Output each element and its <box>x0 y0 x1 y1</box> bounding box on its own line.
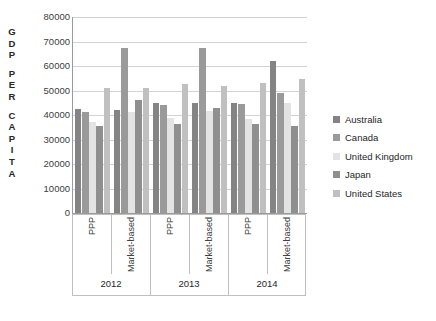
legend-swatch <box>333 134 340 141</box>
bar[interactable] <box>96 126 103 213</box>
bar[interactable] <box>89 122 96 213</box>
legend-item[interactable]: Canada <box>333 129 433 148</box>
bar[interactable] <box>192 103 199 213</box>
axis-title-letter: A <box>9 168 16 180</box>
y-axis-tick-label: 60000 <box>24 60 70 71</box>
category-label: PPP <box>228 214 267 274</box>
category-label-text: Market-based <box>126 217 136 272</box>
category-label: Market-based <box>111 214 150 274</box>
bar[interactable] <box>270 61 277 213</box>
bar-group <box>190 17 229 213</box>
y-axis-title: GDPPERCAPITA <box>4 26 20 179</box>
legend-item[interactable]: United Kingdom <box>333 147 433 166</box>
axis-title-letter: P <box>9 133 15 145</box>
bar[interactable] <box>82 112 89 213</box>
year-label: 2014 <box>228 274 306 296</box>
legend-label: United States <box>345 188 402 199</box>
bar[interactable] <box>121 48 128 213</box>
axis-title-letter: C <box>9 110 16 122</box>
bar[interactable] <box>221 86 228 213</box>
bar[interactable] <box>213 108 220 213</box>
bar-group <box>268 17 307 213</box>
y-axis-tick-label: 0 <box>24 207 70 218</box>
bar[interactable] <box>199 48 206 213</box>
category-label: PPP <box>150 214 189 274</box>
bar[interactable] <box>260 83 267 213</box>
bar[interactable] <box>182 84 189 213</box>
category-label: Market-based <box>267 214 306 274</box>
bar-groups <box>73 17 307 213</box>
y-axis-tick-label: 20000 <box>24 158 70 169</box>
y-axis-tick-label: 10000 <box>24 183 70 194</box>
category-label-text: PPP <box>165 217 175 235</box>
category-separator <box>150 214 151 274</box>
bar[interactable] <box>252 124 259 213</box>
axis-title-letter: P <box>9 68 15 80</box>
axis-title-letter: T <box>9 156 15 168</box>
y-axis-tick-label: 40000 <box>24 109 70 120</box>
axis-title-letter: G <box>8 26 15 38</box>
bar[interactable] <box>299 79 306 213</box>
legend-item[interactable]: United States <box>333 184 433 203</box>
bar[interactable] <box>174 124 181 213</box>
legend-label: Australia <box>345 114 382 125</box>
y-axis-tick-label: 70000 <box>24 36 70 47</box>
bar[interactable] <box>277 93 284 213</box>
y-axis-tick-label: 80000 <box>24 11 70 22</box>
bar[interactable] <box>206 111 213 213</box>
axis-title-letter: R <box>9 91 16 103</box>
axis-title-letter: E <box>9 79 15 91</box>
legend-label: Canada <box>345 132 378 143</box>
bar-group <box>151 17 190 213</box>
category-label-text: PPP <box>243 217 253 235</box>
legend-item[interactable]: Japan <box>333 166 433 185</box>
axis-title-letter: A <box>9 121 16 133</box>
bar[interactable] <box>114 110 121 213</box>
bar[interactable] <box>245 119 252 213</box>
category-separator <box>111 214 112 274</box>
y-axis-tick-label: 50000 <box>24 85 70 96</box>
year-separator <box>150 274 151 296</box>
bar[interactable] <box>167 118 174 213</box>
legend: AustraliaCanadaUnited KingdomJapanUnited… <box>333 110 433 203</box>
axis-title-letter: I <box>11 144 14 156</box>
bar[interactable] <box>160 105 167 213</box>
chart-canvas: GDPPERCAPITA 800007000060000500004000030… <box>0 0 436 321</box>
legend-label: Japan <box>345 169 371 180</box>
bar[interactable] <box>284 103 291 213</box>
legend-swatch <box>333 190 340 197</box>
legend-swatch <box>333 153 340 160</box>
year-label: 2012 <box>72 274 150 296</box>
year-labels: 201220132014 <box>72 274 306 296</box>
axis-title-letter: D <box>9 38 16 50</box>
bar[interactable] <box>143 88 150 213</box>
bar[interactable] <box>128 112 135 213</box>
category-separator <box>267 214 268 274</box>
category-label-text: Market-based <box>282 217 292 272</box>
bar[interactable] <box>238 104 245 213</box>
legend-item[interactable]: Australia <box>333 110 433 129</box>
category-separator <box>228 214 229 274</box>
bar[interactable] <box>104 88 111 213</box>
y-axis-tick-labels: 8000070000600005000040000300002000010000… <box>22 0 70 321</box>
category-label: Market-based <box>189 214 228 274</box>
bar-group <box>229 17 268 213</box>
bar[interactable] <box>135 100 142 213</box>
legend-swatch <box>333 171 340 178</box>
bar[interactable] <box>153 103 160 213</box>
category-label-text: PPP <box>87 217 97 235</box>
year-label: 2013 <box>150 274 228 296</box>
legend-swatch <box>333 116 340 123</box>
category-separator <box>189 214 190 274</box>
category-label-text: Market-based <box>204 217 214 272</box>
bar[interactable] <box>75 109 82 213</box>
bar-group <box>112 17 151 213</box>
y-axis-tick-label: 30000 <box>24 134 70 145</box>
plot-area <box>72 17 307 214</box>
category-label: PPP <box>72 214 111 274</box>
axis-title-letter: P <box>9 49 15 61</box>
legend-label: United Kingdom <box>345 151 413 162</box>
bar-group <box>73 17 112 213</box>
bar[interactable] <box>231 103 238 213</box>
bar[interactable] <box>291 126 298 213</box>
